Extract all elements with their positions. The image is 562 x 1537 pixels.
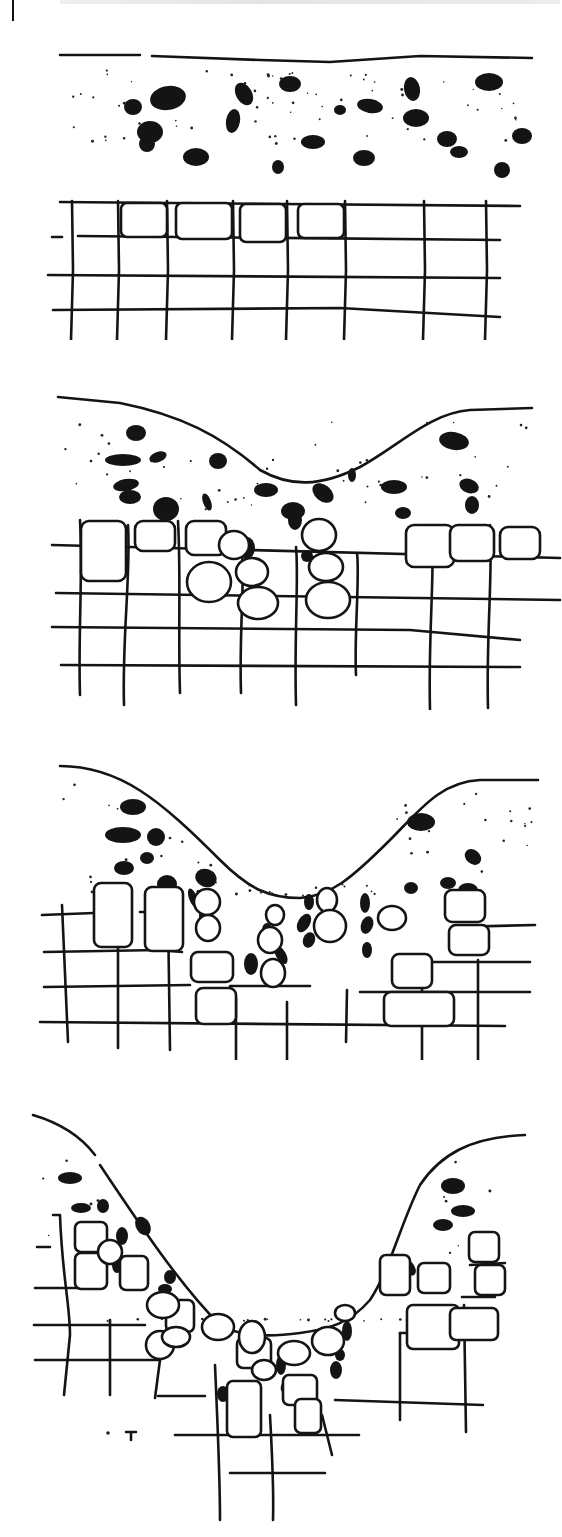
dark-clast bbox=[407, 813, 435, 831]
sediment-speck bbox=[284, 893, 287, 896]
dark-clast bbox=[360, 893, 370, 913]
sediment-speck bbox=[488, 495, 491, 498]
sediment-speck bbox=[524, 825, 526, 827]
sediment-speck bbox=[499, 93, 501, 95]
joint-1 bbox=[53, 1215, 70, 1395]
block-8 bbox=[449, 925, 489, 955]
dark-clast bbox=[330, 1361, 342, 1379]
sediment-speck bbox=[272, 459, 274, 461]
sediment-speck bbox=[108, 805, 110, 807]
sediment-speck bbox=[340, 99, 343, 102]
sediment-speck bbox=[91, 140, 94, 143]
dark-clast bbox=[475, 73, 503, 91]
loosened-block-7 bbox=[314, 910, 346, 942]
loosened-block-2 bbox=[236, 558, 268, 586]
block-8 bbox=[469, 1232, 499, 1262]
block-9 bbox=[475, 1265, 505, 1295]
sediment-speck bbox=[264, 1318, 267, 1321]
sediment-speck bbox=[129, 470, 131, 472]
loosened-block-6 bbox=[317, 888, 337, 912]
bedding-plane-2 bbox=[48, 275, 500, 278]
sediment-speck bbox=[117, 808, 119, 810]
dark-clast bbox=[193, 866, 220, 890]
joint-5 bbox=[270, 1415, 273, 1520]
bedding-plane-3 bbox=[52, 627, 520, 640]
sediment-speck bbox=[181, 840, 183, 842]
sediment-speck bbox=[520, 424, 523, 427]
bedding-plane-3 bbox=[53, 308, 500, 317]
loosened-block-2 bbox=[147, 1292, 179, 1318]
sediment-speck bbox=[410, 852, 413, 855]
block-6 bbox=[392, 954, 432, 988]
block-3 bbox=[120, 1256, 148, 1290]
sediment-speck bbox=[359, 461, 362, 464]
joint-6 bbox=[356, 553, 358, 675]
dark-clast bbox=[71, 1203, 91, 1213]
sediment-speck bbox=[105, 139, 107, 141]
upper-block-1 bbox=[121, 203, 167, 237]
sediment-speck bbox=[421, 476, 423, 478]
dark-clast bbox=[120, 799, 146, 815]
sediment-speck bbox=[131, 81, 132, 82]
sediment-speck bbox=[267, 97, 269, 99]
sediment-speck bbox=[515, 119, 517, 121]
sediment-speck bbox=[504, 139, 507, 142]
stage-3-drawing bbox=[0, 730, 562, 1060]
dark-clast bbox=[395, 507, 411, 519]
sediment-speck bbox=[180, 498, 182, 500]
sediment-speck bbox=[256, 106, 259, 109]
sediment-speck bbox=[445, 1200, 448, 1203]
dark-clast bbox=[153, 497, 179, 521]
sediment-speck bbox=[218, 489, 221, 492]
sediment-speck bbox=[42, 1177, 44, 1179]
sediment-speck bbox=[365, 501, 367, 503]
sediment-speck bbox=[262, 890, 263, 891]
sediment-speck bbox=[72, 96, 74, 98]
dark-clast bbox=[457, 476, 481, 496]
dark-clast bbox=[356, 97, 384, 115]
sediment-speck bbox=[266, 468, 268, 470]
loosened-block-5 bbox=[202, 1314, 234, 1340]
sediment-speck bbox=[396, 818, 398, 820]
sediment-speck bbox=[243, 1320, 245, 1322]
sediment-speck bbox=[449, 1252, 451, 1254]
loosened-block-4 bbox=[162, 1327, 190, 1347]
dark-clast bbox=[309, 479, 338, 507]
dark-clast bbox=[119, 490, 141, 504]
dark-clast bbox=[512, 128, 532, 144]
sediment-speck bbox=[108, 442, 111, 445]
dark-clast bbox=[105, 827, 141, 843]
dark-clast bbox=[164, 1270, 176, 1284]
sediment-speck bbox=[365, 74, 367, 76]
dark-clast bbox=[433, 1219, 453, 1231]
loosened-block-9 bbox=[312, 1327, 344, 1355]
sediment-speck bbox=[104, 136, 106, 138]
sediment-speck bbox=[423, 138, 425, 140]
dark-clast bbox=[403, 109, 429, 127]
sediment-speck bbox=[315, 886, 318, 889]
sediment-speck bbox=[526, 845, 528, 847]
sediment-speck bbox=[363, 79, 365, 81]
dark-clast bbox=[254, 483, 278, 497]
sediment-speck bbox=[267, 73, 270, 76]
sediment-speck bbox=[467, 104, 469, 106]
dark-clast bbox=[97, 1199, 109, 1213]
loosened-block-6 bbox=[306, 582, 350, 618]
sediment-speck bbox=[366, 885, 368, 887]
sediment-speck bbox=[257, 483, 259, 485]
sediment-speck bbox=[270, 892, 273, 895]
sediment-speck bbox=[477, 109, 479, 111]
dark-clast bbox=[441, 1178, 465, 1194]
sediment-speck bbox=[392, 117, 394, 119]
sediment-speck bbox=[366, 459, 369, 462]
dark-clast bbox=[124, 99, 142, 115]
sediment-speck bbox=[321, 106, 323, 108]
sediment-speck bbox=[254, 90, 257, 93]
sediment-speck bbox=[190, 460, 192, 462]
upper-block-4 bbox=[406, 525, 454, 567]
upper-block-2 bbox=[135, 521, 175, 551]
panel-stage-4 bbox=[0, 1075, 562, 1537]
sediment-speck bbox=[272, 75, 273, 76]
speck-mark bbox=[106, 1431, 110, 1435]
dark-clast bbox=[148, 449, 168, 465]
